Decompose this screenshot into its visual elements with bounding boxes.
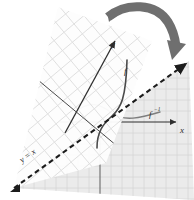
figure-canvas: x f −1 xyxy=(0,0,194,200)
x-axis-label: x xyxy=(179,125,184,135)
rotation-arrow-head xyxy=(167,40,186,60)
inverse-function-label-exponent: −1 xyxy=(154,106,161,112)
y-axis-label: y xyxy=(110,39,115,49)
inverse-function-reflection-figure: x f −1 xyxy=(0,0,194,200)
